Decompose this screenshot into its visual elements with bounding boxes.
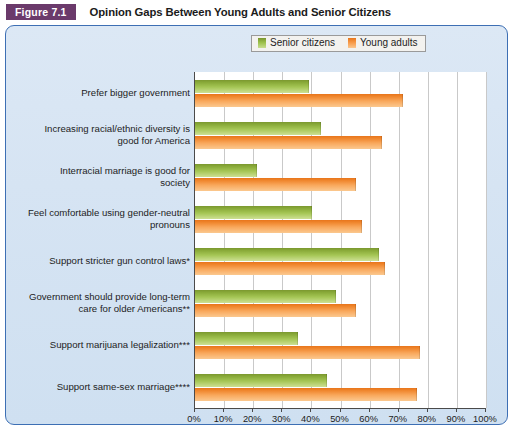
category-label-1: Increasing racial/ethnic diversity isgoo… <box>10 123 190 146</box>
bar-young-1 <box>195 136 382 149</box>
x-tick-90 <box>456 408 457 412</box>
legend-label-senior-citizens: Senior citizens <box>270 38 335 48</box>
category-label-line: Government should provide long-term <box>10 291 190 303</box>
category-label-line: Support marijuana legalization*** <box>10 339 190 351</box>
x-tick-label-20: 20% <box>243 414 262 424</box>
category-label-7: Support same-sex marriage**** <box>10 381 190 393</box>
x-tick-label-50: 50% <box>330 414 349 424</box>
bar-young-0 <box>195 94 403 107</box>
x-tick-40 <box>310 408 311 412</box>
bar-senior-5 <box>195 290 336 303</box>
legend-swatch-senior-icon <box>258 38 266 48</box>
gridline-90 <box>457 72 458 408</box>
x-tick-label-0: 0% <box>187 414 200 424</box>
figure-title: Opinion Gaps Between Young Adults and Se… <box>90 6 391 18</box>
chart-legend: Senior citizens Young adults <box>251 35 426 52</box>
bar-senior-2 <box>195 164 257 177</box>
x-tick-10 <box>223 408 224 412</box>
chart-panel: Senior citizens Young adults 0%10%20%30%… <box>5 25 508 425</box>
bar-young-7 <box>195 388 417 401</box>
bar-senior-0 <box>195 80 309 93</box>
figure-header: Figure 7.1 Opinion Gaps Between Young Ad… <box>0 0 514 24</box>
category-label-line: Feel comfortable using gender-neutral <box>10 207 190 219</box>
x-tick-100 <box>485 408 486 412</box>
x-tick-30 <box>281 408 282 412</box>
bar-young-3 <box>195 220 362 233</box>
x-tick-60 <box>369 408 370 412</box>
bar-young-2 <box>195 178 356 191</box>
plot-area <box>194 72 486 408</box>
category-label-line: Support stricter gun control laws* <box>10 255 190 267</box>
gridline-100 <box>486 72 487 408</box>
gridline-80 <box>428 72 429 408</box>
x-tick-label-80: 80% <box>417 414 436 424</box>
x-tick-label-70: 70% <box>388 414 407 424</box>
category-label-4: Support stricter gun control laws* <box>10 255 190 267</box>
x-tick-50 <box>340 408 341 412</box>
bar-senior-3 <box>195 206 312 219</box>
bar-senior-1 <box>195 122 321 135</box>
category-label-line: Support same-sex marriage**** <box>10 381 190 393</box>
x-tick-label-30: 30% <box>272 414 291 424</box>
category-label-line: good for America <box>10 135 190 147</box>
bar-young-6 <box>195 346 420 359</box>
x-tick-20 <box>252 408 253 412</box>
bar-young-4 <box>195 262 385 275</box>
bar-senior-4 <box>195 248 379 261</box>
x-tick-label-60: 60% <box>359 414 378 424</box>
legend-label-young-adults: Young adults <box>360 38 417 48</box>
category-label-5: Government should provide long-termcare … <box>10 291 190 314</box>
bar-young-5 <box>195 304 356 317</box>
x-tick-label-90: 90% <box>447 414 466 424</box>
legend-item-senior-citizens: Senior citizens <box>258 38 335 48</box>
x-tick-80 <box>427 408 428 412</box>
category-label-line: society <box>10 177 190 189</box>
category-label-2: Interracial marriage is good forsociety <box>10 165 190 188</box>
figure-number-tag: Figure 7.1 <box>6 4 76 20</box>
category-label-line: Increasing racial/ethnic diversity is <box>10 123 190 135</box>
category-label-0: Prefer bigger government <box>10 87 190 99</box>
legend-item-young-adults: Young adults <box>348 38 417 48</box>
category-label-line: care for older Americans** <box>10 303 190 315</box>
category-label-line: pronouns <box>10 219 190 231</box>
x-tick-70 <box>398 408 399 412</box>
x-tick-label-100: 100% <box>473 414 497 424</box>
category-label-6: Support marijuana legalization*** <box>10 339 190 351</box>
category-label-line: Interracial marriage is good for <box>10 165 190 177</box>
x-tick-label-40: 40% <box>301 414 320 424</box>
category-label-line: Prefer bigger government <box>10 87 190 99</box>
bar-senior-6 <box>195 332 298 345</box>
legend-swatch-young-icon <box>348 38 356 48</box>
bar-senior-7 <box>195 374 327 387</box>
x-tick-0 <box>194 408 195 412</box>
category-label-3: Feel comfortable using gender-neutralpro… <box>10 207 190 230</box>
x-tick-label-10: 10% <box>214 414 233 424</box>
